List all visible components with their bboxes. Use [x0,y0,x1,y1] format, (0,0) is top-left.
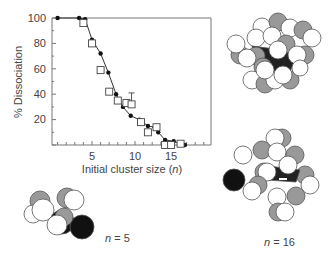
y-tick-20: 20 [34,113,46,125]
x-tick-5: 5 [89,150,95,162]
dissociation-chart: 100 80 60 40 20 5 10 15 % Dissociation I… [0,0,335,258]
cluster-label-n5: n = 5 [105,232,130,244]
y-tick-60: 60 [34,63,46,75]
simulation-series [55,16,187,147]
cluster-illustration-top [227,13,321,93]
cluster-n5-illustration [24,188,94,239]
x-tick-15: 15 [165,150,177,162]
plot-frame [52,18,211,145]
y-axis-title: % Dissociation [12,46,24,118]
x-tick-10: 10 [129,150,141,162]
experiment-series [80,20,184,149]
y-tick-40: 40 [34,88,46,100]
y-tick-80: 80 [34,37,46,49]
x-axis-title: Initial cluster size (n) [82,163,182,175]
y-axis-ticks [52,18,56,145]
y-tick-100: 100 [28,12,46,24]
cluster-n16-illustration [223,129,319,221]
cluster-label-n16: n = 16 [264,236,295,248]
